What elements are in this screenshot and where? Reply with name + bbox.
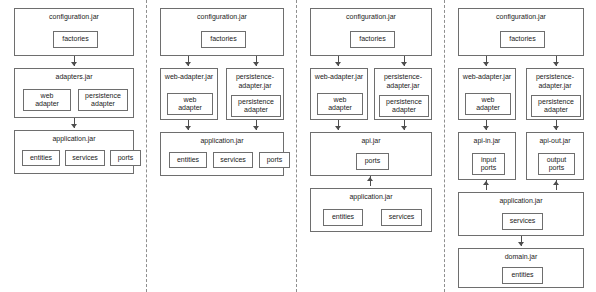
component-persistence-adapter[interactable]: persistence adapter (231, 95, 281, 117)
arrow-head-down-icon (518, 242, 524, 246)
jar-configuration[interactable]: configuration.jar factories (14, 8, 134, 56)
component-input-ports[interactable]: input ports (472, 153, 505, 175)
jar-configuration[interactable]: configuration.jar factories (458, 8, 584, 56)
component-entities[interactable]: entities (22, 150, 60, 166)
jar-title: api.jar (311, 137, 431, 146)
arrow-head-down-icon (401, 126, 407, 130)
arrow-head-down-icon (185, 126, 191, 130)
component-ports[interactable]: ports (110, 150, 141, 166)
jar-configuration[interactable]: configuration.jar factories (310, 8, 432, 56)
jar-api-out[interactable]: api-out.jar output ports (526, 132, 584, 180)
component-entities[interactable]: entities (502, 267, 543, 284)
component-web-adapter[interactable]: web adapter (167, 93, 213, 115)
component-entities[interactable]: entities (169, 152, 207, 168)
arrow-head-up-icon (367, 177, 373, 181)
jar-adapters[interactable]: adapters.jar web adapter persistence ada… (14, 68, 134, 118)
variant-column-1: configuration.jar factories adapters.jar… (0, 0, 146, 292)
component-persistence-adapter[interactable]: persistence adapter (531, 95, 581, 117)
arrow-head-down-icon (253, 126, 259, 130)
arrow-head-down-icon (71, 124, 77, 128)
jar-title: application.jar (459, 197, 583, 206)
arrow-head-down-icon (253, 62, 259, 66)
arrow-head-up-icon (483, 181, 489, 185)
component-persistence-adapter[interactable]: persistence adapter (379, 95, 429, 117)
component-factories[interactable]: factories (53, 31, 98, 48)
component-persistence-adapter[interactable]: persistence adapter (78, 89, 128, 111)
jar-title: application.jar (161, 137, 283, 146)
architecture-packaging-diagram: configuration.jar factories adapters.jar… (0, 0, 596, 292)
jar-title: persistence- adapter.jar (527, 73, 583, 90)
jar-domain[interactable]: domain.jar entities (458, 248, 584, 288)
jar-title: persistence- adapter.jar (227, 73, 283, 90)
component-entities[interactable]: entities (323, 209, 363, 226)
jar-title: adapters.jar (15, 73, 133, 82)
component-factories[interactable]: factories (201, 31, 246, 48)
arrow-head-down-icon (71, 62, 77, 66)
jar-title: application.jar (311, 193, 431, 202)
jar-persistence-adapter[interactable]: persistence- adapter.jar persistence ada… (526, 68, 584, 120)
jar-title: application.jar (15, 135, 133, 144)
jar-application[interactable]: application.jar services (458, 192, 584, 236)
jar-title: configuration.jar (161, 13, 283, 22)
jar-configuration[interactable]: configuration.jar factories (160, 8, 284, 56)
component-factories[interactable]: factories (500, 31, 545, 48)
component-services[interactable]: services (65, 150, 105, 166)
component-services[interactable]: services (381, 209, 422, 226)
component-services[interactable]: services (502, 213, 543, 230)
jar-title: web-adapter.jar (459, 73, 515, 82)
arrow-head-down-icon (553, 62, 559, 66)
component-factories[interactable]: factories (350, 31, 395, 48)
jar-title: configuration.jar (311, 13, 431, 22)
jar-api-in[interactable]: api-in.jar input ports (458, 132, 516, 180)
variant-column-4: configuration.jar factories web-adapter.… (444, 0, 596, 292)
variant-column-2: configuration.jar factories web-adapter.… (146, 0, 296, 292)
jar-title: persistence- adapter.jar (375, 73, 431, 90)
component-web-adapter[interactable]: web adapter (317, 93, 363, 115)
variant-column-3: configuration.jar factories web-adapter.… (296, 0, 444, 292)
jar-application[interactable]: application.jar entities services (310, 188, 432, 232)
component-output-ports[interactable]: output ports (538, 153, 575, 175)
arrow-head-down-icon (483, 126, 489, 130)
component-web-adapter[interactable]: web adapter (23, 89, 71, 111)
arrow-head-down-icon (553, 126, 559, 130)
jar-persistence-adapter[interactable]: persistence- adapter.jar persistence ada… (226, 68, 284, 120)
jar-title: configuration.jar (459, 13, 583, 22)
jar-title: api-out.jar (527, 137, 583, 146)
component-services[interactable]: services (213, 152, 253, 168)
jar-application[interactable]: application.jar entities services ports (160, 132, 284, 176)
jar-title: configuration.jar (15, 13, 133, 22)
jar-title: web-adapter.jar (311, 73, 367, 82)
jar-title: web-adapter.jar (161, 73, 217, 82)
component-ports[interactable]: ports (259, 152, 290, 168)
jar-web-adapter[interactable]: web-adapter.jar web adapter (458, 68, 516, 120)
arrow-head-down-icon (335, 126, 341, 130)
arrow-head-down-icon (401, 62, 407, 66)
arrow-head-down-icon (483, 62, 489, 66)
jar-title: api-in.jar (459, 137, 515, 146)
jar-persistence-adapter[interactable]: persistence- adapter.jar persistence ada… (374, 68, 432, 120)
jar-web-adapter[interactable]: web-adapter.jar web adapter (310, 68, 368, 120)
arrow-head-down-icon (185, 62, 191, 66)
jar-web-adapter[interactable]: web-adapter.jar web adapter (160, 68, 218, 120)
jar-api[interactable]: api.jar ports (310, 132, 432, 176)
jar-title: domain.jar (459, 253, 583, 262)
component-ports[interactable]: ports (356, 153, 389, 170)
arrow-head-down-icon (335, 62, 341, 66)
component-web-adapter[interactable]: web adapter (465, 93, 511, 115)
jar-application[interactable]: application.jar entities services ports (14, 130, 134, 174)
arrow-head-up-icon (553, 181, 559, 185)
